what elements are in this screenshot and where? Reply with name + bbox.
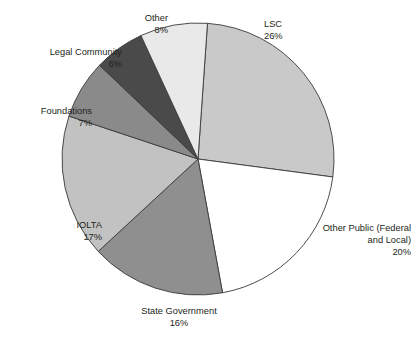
pie-label-other: Other 8%: [68, 12, 168, 36]
pie-label-legal-community: Legal Community 6%: [0, 46, 122, 70]
pie-label-other-public-percent: 20%: [312, 246, 411, 258]
pie-label-lsc-percent: 26%: [264, 30, 364, 42]
pie-label-other-public: Other Public (Federal and Local) 20%: [312, 222, 411, 259]
pie-label-legal-community-name: Legal Community: [50, 47, 122, 57]
pie-label-foundations-name: Foundations: [41, 106, 92, 116]
pie-label-lsc: LSC 26%: [264, 18, 364, 42]
pie-label-other-public-name-line2: and Local): [312, 234, 411, 246]
pie-label-iolta-percent: 17%: [0, 231, 102, 243]
pie-label-other-public-name-line1: Other Public (Federal: [312, 222, 411, 234]
pie-label-other-percent: 8%: [68, 24, 168, 36]
pie-label-foundations-percent: 7%: [0, 117, 92, 129]
pie-label-legal-community-percent: 6%: [0, 58, 122, 70]
pie-label-lsc-name: LSC: [264, 19, 282, 29]
pie-label-other-name: Other: [145, 13, 168, 23]
pie-label-foundations: Foundations 7%: [0, 105, 92, 129]
pie-label-state-government: State Government 16%: [106, 305, 252, 329]
pie-label-state-government-percent: 16%: [106, 317, 252, 329]
pie-label-iolta-name: IOLTA: [77, 220, 102, 230]
pie-label-state-government-name: State Government: [141, 306, 216, 316]
pie-chart-figure: LSC 26% Other Public (Federal and Local)…: [0, 0, 411, 340]
pie-slice-lsc: [198, 23, 334, 177]
pie-label-iolta: IOLTA 17%: [0, 219, 102, 243]
